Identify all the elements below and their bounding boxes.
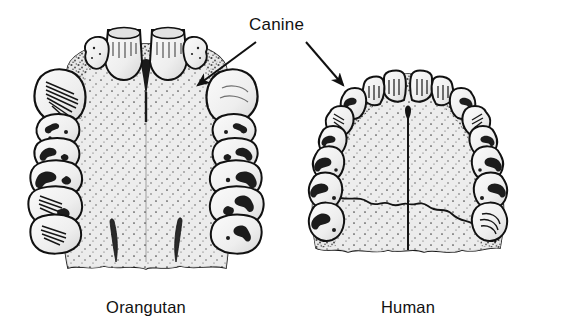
orangutan-left-tooth-row [28,69,85,253]
human-specimen-drawing [309,71,508,253]
orangutan-right-tooth-row [207,69,264,253]
figure-canvas: Canine Orangutan Human [0,0,561,332]
callout-label-canine: Canine [249,16,304,33]
human-central-incisor-left [384,71,406,102]
specimen-label-human: Human [363,299,453,316]
anatomical-illustration [0,0,561,332]
arrow-to-human-canine [306,42,343,85]
specimen-label-orangutan: Orangutan [91,299,201,316]
orangutan-lateral-incisor-left [85,37,109,69]
human-molar3-right [472,203,507,241]
human-central-incisor-right [410,71,432,102]
orangutan-lateral-incisor-right [183,37,207,69]
